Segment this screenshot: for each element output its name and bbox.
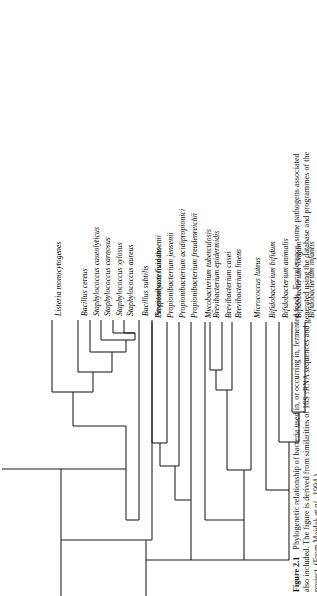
tip-label-staphylococcus-xylosus: Staphylococcus xylosus	[116, 242, 124, 316]
caption-line-3-text-a: project. (From Maidak	[312, 516, 317, 592]
figure-caption-line-3: project. (From Maidak et al., 1994.)	[313, 474, 317, 592]
tip-label-brevibacterium-linens: Brevibacterium linens	[235, 249, 243, 318]
tip-label-bifidobacterium-bifidum: Bifidobacterium bifidum	[269, 241, 277, 318]
caption-line-3-text-b: , 1994.)	[312, 474, 317, 499]
figure-caption-line-2: also included. The figure is derived fro…	[303, 152, 311, 592]
tip-label-propionibacterium-freudenreichii: Propionibacterium freudenreichii	[191, 213, 199, 318]
tip-label-staphylococcus-aureus: Staphylococcus aureus	[127, 244, 135, 316]
tip-label-listeria-monocytogenes: Listeria monocytogenes	[55, 241, 63, 316]
tip-label-staphylococcus-caseolyticus: Staphylococcus caseolyticus	[93, 227, 101, 316]
tip-label-brevibacterium-epidermidis: Brevibacterium epidermidis	[213, 231, 221, 318]
tip-label-bacillus-cereus: Bacillus cereus	[81, 268, 89, 316]
caption-etal: et al.	[312, 499, 317, 515]
figure-number: Figure 2.1	[292, 557, 301, 592]
tip-label-bifidobacterium-animalis: Bifidobacterium animalis	[282, 238, 290, 318]
tip-label-propionibacterium-jensenii: Propionibacterium jensenii	[167, 232, 175, 318]
figure-page: Listeria monocytogenes Bacillus cereus S…	[0, 0, 317, 596]
caption-line-1-text: Phylogenetic relationship of bacteria us…	[292, 153, 301, 549]
caption-line-2-text: also included. The figure is derived fro…	[302, 152, 311, 592]
tip-label-micrococcus-luteus: Micrococcus luteus	[254, 257, 262, 318]
figure-caption-line-1: Figure 2.1Phylogenetic relationship of b…	[293, 153, 301, 592]
tip-label-propionibacterium-thoenii: Propionibacterium thoenii	[155, 235, 163, 318]
tip-label-staphylococcus-carnosus: Staphylococcus carnosus	[104, 237, 112, 316]
tip-label-propionibacterium-acidipropionici: Propionibacterium acidipropionici	[179, 209, 187, 318]
tip-label-bacillus-subtilis: Bacillus subtilis	[142, 266, 150, 316]
tip-label-brevibacterium-casei: Brevibacterium casei	[225, 252, 233, 318]
